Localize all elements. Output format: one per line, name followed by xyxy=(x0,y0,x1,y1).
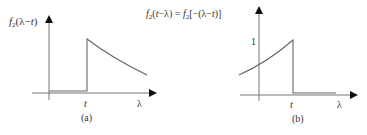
panel-b-x-axis-label: λ xyxy=(337,99,342,110)
panel-a-x-axis-label: λ xyxy=(137,98,142,109)
panel-a-curve xyxy=(49,39,147,91)
panel-a-caption: (a) xyxy=(81,112,92,124)
panel-b-x-tick-t: t xyxy=(290,99,293,110)
diagram-canvas: f2(λ−t) t λ (a) 1 f2(t−λ) = f2[−(λ−t)] t… xyxy=(0,0,367,135)
panel-b: 1 f2(t−λ) = f2[−(λ−t)] t λ (b) xyxy=(146,8,354,125)
panel-a-y-label: f2(λ−t) xyxy=(9,15,38,29)
panel-b-curve xyxy=(239,40,336,93)
panel-a: f2(λ−t) t λ (a) xyxy=(9,15,153,124)
panel-b-y-label: f2(t−λ) = f2[−(λ−t)] xyxy=(146,8,221,21)
panel-b-caption: (b) xyxy=(292,113,304,125)
panel-a-x-tick-t: t xyxy=(84,98,87,109)
panel-b-y-tick-1: 1 xyxy=(251,36,256,47)
